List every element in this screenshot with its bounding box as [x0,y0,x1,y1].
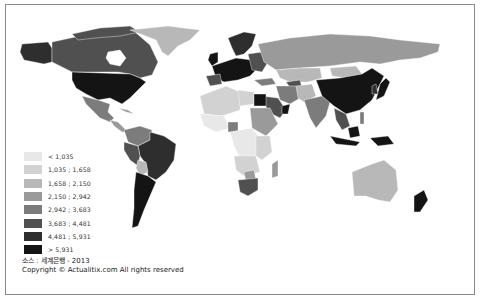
legend-swatch [24,205,42,214]
legend-label: 3,683 ; 4,481 [48,220,91,227]
region-madagascar [272,160,278,178]
region-australia [352,160,398,202]
region-russia [258,34,440,70]
legend-item: 2,150 ; 2,942 [24,190,91,203]
region-borneo [348,126,360,138]
legend-item: 3,683 ; 4,481 [24,216,91,229]
legend-item: 1,658 ; 2,150 [24,177,91,190]
region-east-africa [256,136,272,160]
legend-item: 4,481 ; 5,931 [24,230,91,243]
legend-item: < 1,035 [24,150,91,163]
legend-swatch [24,152,42,161]
region-turkey [254,78,276,86]
region-argentina-chile [132,172,156,228]
region-uk [208,52,218,66]
region-new-zealand [414,190,428,212]
region-philippines [360,112,364,124]
copyright-text: Copyright © Actualitix.com All rights re… [22,266,184,275]
legend-item: 1,035 ; 1,658 [24,163,91,176]
legend-swatch [24,179,42,188]
legend-item: > 5,931 [24,243,91,256]
legend-item: 2,942 ; 3,683 [24,203,91,216]
legend-label: 1,658 ; 2,150 [48,180,91,187]
region-iberia [206,74,222,86]
source-text: 소스 : 세계은행 - 2013 [22,257,184,266]
region-caribbean [118,108,134,114]
region-egypt [254,94,266,106]
legend-swatch [24,219,42,228]
region-indonesia [330,136,360,146]
region-oman [282,104,290,114]
legend-label: 1,035 ; 1,658 [48,166,91,173]
legend-label: 2,942 ; 3,683 [48,206,91,213]
legend-label: 2,150 ; 2,942 [48,193,91,200]
legend-label: > 5,931 [48,246,74,253]
region-west-africa [200,114,230,132]
region-south-africa [238,178,258,196]
legend-swatch [24,232,42,241]
region-scandinavia [228,32,256,56]
map-footer: 소스 : 세계은행 - 2013 Copyright © Actualitix.… [22,257,184,275]
legend-swatch [24,192,42,201]
legend-label: < 1,035 [48,153,74,160]
region-papua [370,136,394,146]
region-nigeria [228,122,238,132]
map-legend: < 1,035 1,035 ; 1,658 1,658 ; 2,150 2,15… [24,150,91,256]
region-mexico [82,96,114,122]
region-kazakhstan [276,68,322,82]
region-alaska [20,42,52,64]
region-india [304,96,330,128]
region-usa [72,72,146,104]
legend-swatch [24,165,42,174]
legend-label: 4,481 ; 5,931 [48,233,91,240]
legend-swatch [24,245,42,254]
region-libya [238,90,254,106]
region-north-africa-west [200,86,240,116]
